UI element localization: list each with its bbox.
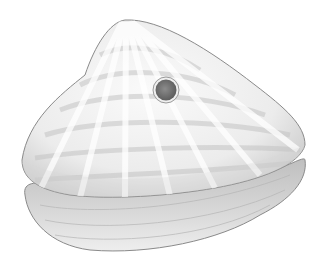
shell-drawing: [0, 0, 331, 269]
drill-hole: [153, 77, 179, 103]
shell-illustration: [0, 0, 331, 269]
upper-valve: [22, 20, 305, 200]
